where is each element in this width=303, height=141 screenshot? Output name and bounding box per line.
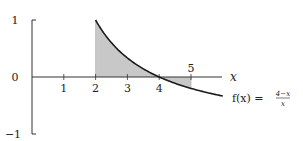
- y-tick-neg1: −1: [5, 128, 21, 141]
- function-label-lhs: f(x) =: [232, 92, 264, 105]
- shaded-area: [96, 20, 191, 88]
- y-tick-labels: 1 0 −1: [5, 14, 21, 141]
- y-tick-1: 1: [12, 14, 19, 27]
- x-tick-2: 2: [92, 82, 99, 95]
- x-tick-5: 5: [188, 62, 195, 75]
- function-label-numerator: 4−x: [275, 90, 290, 98]
- chart: 12345 1 0 −1 x f(x) = 4−x x: [0, 0, 303, 141]
- shaded-region: [96, 20, 160, 77]
- x-tick-4: 4: [156, 82, 163, 95]
- x-tick-1: 1: [60, 82, 67, 95]
- function-label: f(x) = 4−x x: [232, 90, 290, 108]
- x-axis-label: x: [230, 70, 237, 84]
- y-tick-0: 0: [12, 71, 19, 84]
- function-label-denominator: x: [281, 100, 285, 108]
- x-tick-3: 3: [124, 82, 131, 95]
